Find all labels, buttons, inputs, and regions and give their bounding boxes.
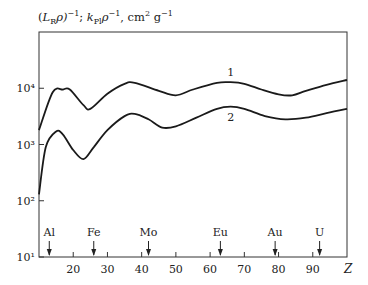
element-label-eu: Eu [213, 226, 228, 239]
element-label-fe: Fe [87, 226, 101, 239]
curve-labels: 12 [227, 66, 234, 124]
series-line-1 [39, 80, 347, 130]
arrow-head-icon [317, 249, 322, 256]
opacity-chart: 10¹10²10³10⁴ 2030405060708090 AlFeMoEuAu… [0, 0, 368, 285]
x-tick-label: 90 [306, 263, 320, 276]
arrow-head-icon [218, 249, 223, 256]
x-tick-label: 30 [100, 263, 114, 276]
series-line-2 [39, 107, 347, 195]
x-tick-label: 40 [135, 263, 149, 276]
arrow-head-icon [146, 249, 151, 256]
data-series [39, 80, 347, 194]
element-label-mo: Mo [140, 226, 158, 239]
x-tick-label: 50 [169, 263, 183, 276]
element-markers: AlFeMoEuAuU [43, 226, 325, 256]
arrow-head-icon [273, 249, 278, 256]
curve-label-1: 1 [227, 66, 234, 79]
y-tick-label: 10³ [17, 139, 35, 152]
element-label-al: Al [43, 226, 56, 239]
plot-frame [39, 32, 347, 257]
x-axis-ticks: 2030405060708090 [66, 252, 320, 276]
element-label-u: U [315, 226, 324, 239]
x-tick-label: 60 [203, 263, 217, 276]
arrow-head-icon [91, 249, 96, 256]
x-tick-label: 70 [237, 263, 251, 276]
arrow-head-icon [47, 249, 52, 256]
y-tick-label: 10² [17, 195, 35, 208]
x-tick-label: 20 [66, 263, 80, 276]
y-tick-label: 10¹ [17, 251, 35, 264]
x-tick-label: 80 [272, 263, 286, 276]
y-axis-ticks: 10¹10²10³10⁴ [17, 82, 44, 264]
element-label-au: Au [267, 226, 283, 239]
y-tick-label: 10⁴ [17, 82, 36, 95]
x-axis-label: Z [343, 262, 353, 276]
curve-label-2: 2 [227, 111, 234, 124]
